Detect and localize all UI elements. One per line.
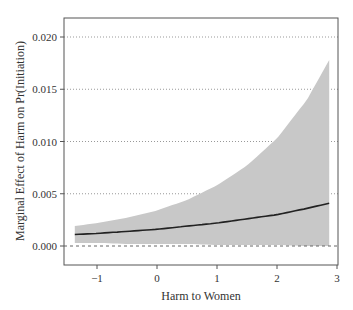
chart-container: 0.0000.0050.0100.0150.020 −10123 Harm to… <box>0 0 353 310</box>
x-axis: −10123 <box>91 265 340 284</box>
x-tick-label: −1 <box>91 272 103 284</box>
marginal-effect-chart: 0.0000.0050.0100.0150.020 −10123 Harm to… <box>0 0 353 310</box>
y-tick-label: 0.010 <box>32 136 57 148</box>
x-tick-label: 2 <box>274 272 280 284</box>
x-tick-label: 1 <box>214 272 220 284</box>
confidence-band <box>75 60 329 246</box>
x-axis-label: Harm to Women <box>161 289 240 303</box>
y-tick-label: 0.000 <box>32 240 57 252</box>
y-tick-label: 0.015 <box>32 83 57 95</box>
y-axis-label: Marginal Effect of Harm on Pr(Initiation… <box>13 41 27 241</box>
y-axis: 0.0000.0050.0100.0150.020 <box>32 31 64 252</box>
x-tick-label: 0 <box>154 272 160 284</box>
y-tick-label: 0.005 <box>32 188 57 200</box>
y-tick-label: 0.020 <box>32 31 57 43</box>
x-tick-label: 3 <box>334 272 340 284</box>
